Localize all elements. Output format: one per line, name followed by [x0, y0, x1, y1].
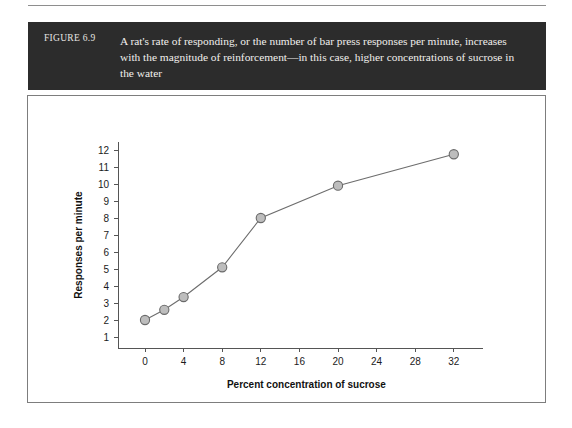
figure-caption-text: A rat's rate of responding, or the numbe…	[120, 33, 546, 82]
x-tick-label: 20	[332, 356, 344, 367]
top-divider-rule	[28, 5, 546, 6]
x-tick-group: 048121620242832	[142, 348, 460, 367]
y-tick-label: 8	[103, 213, 109, 224]
y-tick-label: 10	[98, 179, 110, 190]
x-tick-label: 32	[448, 356, 460, 367]
data-point-marker	[218, 263, 227, 272]
y-tick-label: 11	[99, 162, 110, 173]
y-tick-label: 5	[103, 264, 109, 275]
x-axis-group: 048121620242832	[118, 348, 483, 367]
data-series-group	[140, 150, 458, 325]
data-point-marker	[179, 292, 188, 301]
figure-caption-band: FIGURE 6.9 A rat's rate of responding, o…	[28, 22, 546, 90]
x-tick-label: 4	[181, 356, 187, 367]
y-tick-label: 6	[103, 247, 109, 258]
y-tick-label: 7	[103, 230, 109, 241]
x-axis-title: Percent concentration of sucrose	[227, 379, 386, 390]
data-point-marker	[449, 150, 458, 159]
data-point-marker	[333, 181, 342, 190]
x-tick-label: 8	[219, 356, 225, 367]
line-chart: 123456789101112 048121620242832 Percent …	[27, 95, 546, 403]
y-axis-title: Responses per minute	[73, 191, 84, 299]
x-tick-label: 24	[371, 356, 383, 367]
y-tick-label: 2	[103, 315, 109, 326]
x-tick-label: 16	[294, 356, 306, 367]
y-tick-group: 123456789101112	[98, 145, 118, 343]
y-tick-label: 9	[103, 196, 109, 207]
data-point-marker	[256, 213, 265, 222]
data-point-marker	[140, 315, 149, 324]
x-tick-label: 12	[255, 356, 267, 367]
figure-page: FIGURE 6.9 A rat's rate of responding, o…	[0, 0, 572, 428]
y-tick-label: 3	[103, 298, 109, 309]
y-tick-label: 1	[103, 332, 109, 343]
x-tick-label: 0	[142, 356, 148, 367]
data-point-marker	[160, 305, 169, 314]
series-line	[145, 154, 454, 320]
y-tick-label: 4	[103, 281, 109, 292]
figure-number-label: FIGURE 6.9	[28, 33, 120, 43]
y-axis-group: 123456789101112	[98, 142, 118, 348]
x-tick-label: 28	[410, 356, 422, 367]
y-tick-label: 12	[98, 145, 110, 156]
